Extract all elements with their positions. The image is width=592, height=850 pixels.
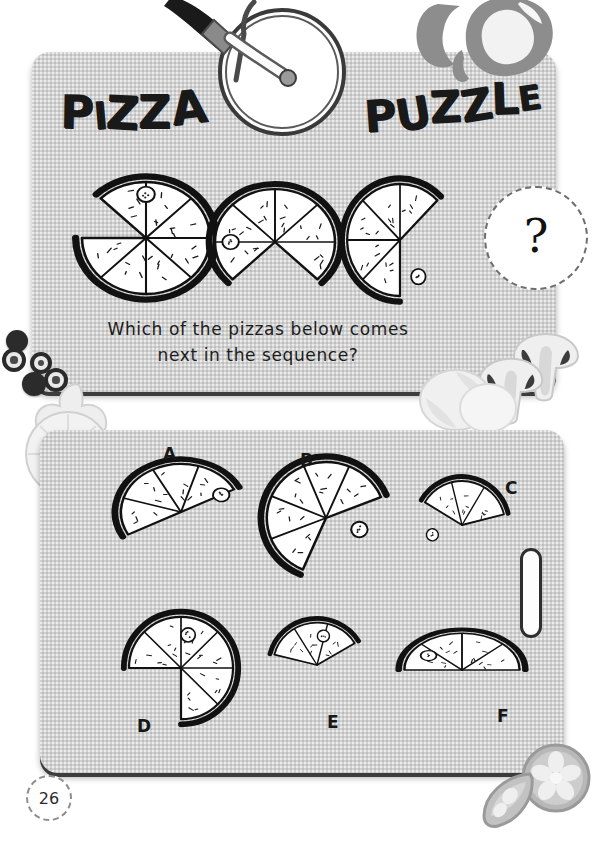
option-b-pizza[interactable]	[252, 448, 400, 588]
pepper-ring-icon	[400, 0, 580, 84]
citrus-half-icon	[478, 768, 538, 830]
sequence-pizza-3	[334, 170, 466, 310]
option-label-b: B	[300, 450, 313, 470]
puzzle-page: PIZZA PUZZLE ? Which of the pizzas below…	[0, 0, 592, 850]
option-e-pizza[interactable]	[262, 612, 372, 718]
option-label-a: A	[163, 444, 176, 464]
option-d-pizza[interactable]	[116, 604, 246, 732]
question-mark-glyph: ?	[524, 213, 549, 259]
page-number: 26	[26, 775, 72, 821]
page-title-pizza: PIZZA	[59, 78, 207, 140]
question-text: Which of the pizzas below comes next in …	[48, 316, 468, 368]
question-line-2: next in the sequence?	[48, 342, 468, 368]
option-a-pizza[interactable]	[106, 452, 256, 572]
option-label-d: D	[137, 716, 151, 736]
option-f-pizza[interactable]	[390, 624, 534, 716]
olive-ring-icon	[2, 348, 26, 372]
option-label-f: F	[497, 706, 509, 726]
option-label-e: E	[327, 712, 339, 732]
option-label-c: C	[505, 478, 517, 498]
question-line-1: Which of the pizzas below comes	[48, 316, 468, 342]
answer-placeholder-bubble: ?	[484, 186, 588, 290]
sequence-pizza-2	[200, 176, 350, 308]
onion-ring-icon	[410, 366, 520, 440]
page-number-value: 26	[39, 789, 59, 808]
option-c-pizza[interactable]	[408, 470, 516, 580]
